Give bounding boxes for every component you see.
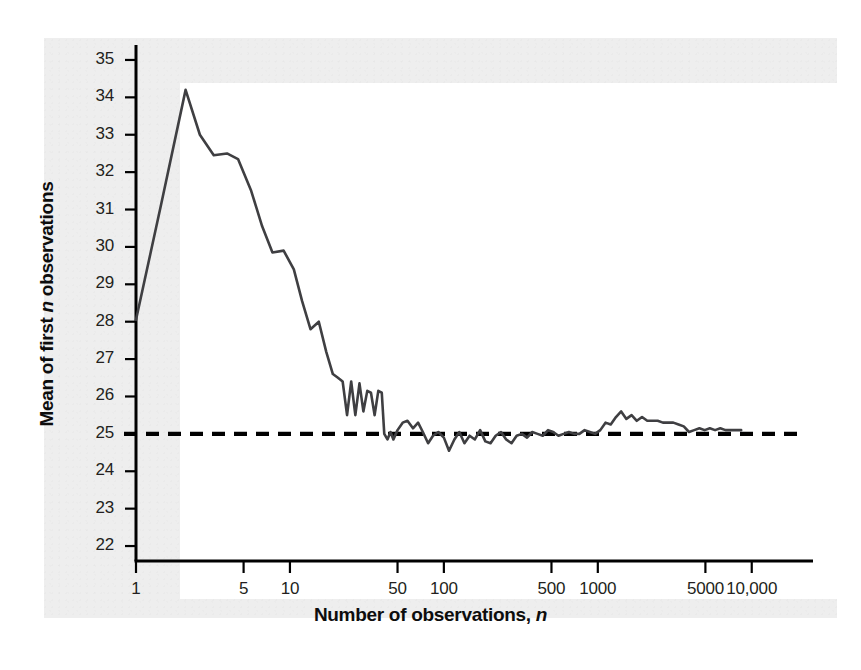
y-tick-label: 29 (80, 273, 114, 293)
y-tick-label: 26 (80, 385, 114, 405)
y-axis-title: Mean of first n observations (36, 94, 58, 514)
x-tick-label: 1 (131, 579, 140, 599)
y-tick-label: 35 (80, 49, 114, 69)
figure-card (44, 38, 837, 618)
x-tick-label: 50 (388, 579, 407, 599)
x-axis-title: Number of observations, n (0, 604, 861, 626)
y-tick-label: 22 (80, 535, 114, 555)
x-tick-label: 1000 (579, 579, 616, 599)
y-tick-label: 33 (80, 124, 114, 144)
y-tick-label: 25 (80, 423, 114, 443)
y-tick-label: 27 (80, 348, 114, 368)
x-axis-title-text: Number of observations, (314, 604, 536, 625)
x-tick-label: 10,000 (726, 579, 777, 599)
x-tick-label: 500 (538, 579, 566, 599)
y-tick-label: 34 (80, 86, 114, 106)
y-tick-label: 24 (80, 460, 114, 480)
plot-panel (180, 83, 857, 599)
y-tick-label: 32 (80, 161, 114, 181)
figure-page: 3534333231302928272625242322 15105010050… (0, 0, 861, 670)
y-tick-label: 28 (80, 311, 114, 331)
x-tick-label: 100 (430, 579, 458, 599)
y-axis-title-suffix: observations (36, 182, 57, 302)
y-axis-title-italic: n (36, 301, 57, 312)
y-tick-label: 30 (80, 236, 114, 256)
x-axis-title-italic: n (536, 604, 547, 625)
x-tick-label: 5 (239, 579, 248, 599)
x-tick-label: 10 (281, 579, 300, 599)
y-tick-label: 23 (80, 498, 114, 518)
y-axis-title-prefix: Mean of first (36, 312, 57, 426)
x-tick-label: 5000 (687, 579, 724, 599)
y-tick-label: 31 (80, 199, 114, 219)
